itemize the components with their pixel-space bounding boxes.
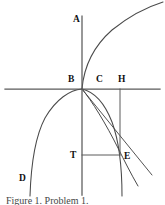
point-label-h: H xyxy=(118,75,125,85)
point-label-c: C xyxy=(96,75,103,85)
figure-container: A B C H T E D Figure 1. Problem 1. xyxy=(0,0,165,205)
figure-caption: Figure 1. Problem 1. xyxy=(6,195,165,205)
point-label-d: D xyxy=(19,174,26,184)
point-label-t: T xyxy=(70,151,76,161)
curve-large-parabola-right xyxy=(82,89,122,196)
point-label-b: B xyxy=(68,75,74,85)
point-label-a: A xyxy=(73,15,80,25)
point-label-e: E xyxy=(124,152,130,162)
curve-inner-through-e xyxy=(82,89,138,186)
chord-b-e-extended xyxy=(82,89,152,175)
curve-large-parabola-left xyxy=(30,89,82,196)
